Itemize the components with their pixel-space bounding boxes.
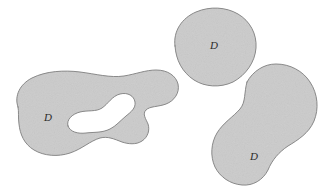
figure-canvas: D D D xyxy=(0,0,328,190)
regions-svg: D D D xyxy=(0,0,328,190)
region-left-label: D xyxy=(43,111,52,123)
region-disk-label: D xyxy=(209,39,218,51)
region-peanut-label: D xyxy=(249,150,258,162)
